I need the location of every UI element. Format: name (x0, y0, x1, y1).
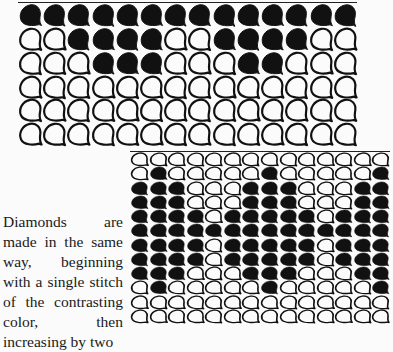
empty-stitch-icon (279, 309, 298, 323)
empty-stitch-icon (212, 75, 236, 99)
filled-stitch-icon (186, 209, 205, 223)
empty-stitch-icon (66, 122, 90, 146)
filled-stitch-icon (186, 223, 205, 237)
empty-stitch-icon (149, 309, 168, 323)
empty-stitch-icon (260, 122, 284, 146)
caption-line: with a single stitch (3, 272, 123, 292)
filled-stitch-icon (186, 252, 205, 266)
empty-stitch-icon (260, 295, 279, 309)
filled-stitch-icon (279, 195, 298, 209)
empty-stitch-icon (309, 98, 333, 122)
empty-stitch-icon (149, 152, 168, 166)
empty-stitch-icon (91, 75, 115, 99)
filled-stitch-icon (316, 223, 335, 237)
filled-stitch-icon (42, 3, 66, 27)
empty-stitch-icon (353, 295, 372, 309)
empty-stitch-icon (167, 295, 186, 309)
filled-stitch-icon (212, 27, 236, 51)
empty-stitch-icon (42, 122, 66, 146)
empty-stitch-icon (333, 98, 357, 122)
empty-stitch-icon (284, 51, 308, 75)
filled-stitch-icon (149, 195, 168, 209)
empty-stitch-icon (284, 98, 308, 122)
empty-stitch-icon (333, 122, 357, 146)
empty-stitch-icon (316, 266, 335, 280)
filled-stitch-icon (115, 27, 139, 51)
filled-stitch-icon (115, 51, 139, 75)
empty-stitch-icon (241, 166, 260, 180)
filled-stitch-icon (91, 27, 115, 51)
filled-stitch-icon (149, 238, 168, 252)
empty-stitch-icon (353, 152, 372, 166)
filled-stitch-icon (149, 280, 168, 294)
empty-stitch-icon (353, 166, 372, 180)
empty-stitch-icon (204, 209, 223, 223)
empty-stitch-icon (130, 280, 149, 294)
filled-stitch-icon (130, 209, 149, 223)
empty-stitch-icon (334, 266, 353, 280)
empty-stitch-icon (223, 280, 242, 294)
empty-stitch-icon (279, 166, 298, 180)
caption-line: increasing by two (3, 332, 123, 352)
filled-stitch-icon (279, 223, 298, 237)
filled-stitch-icon (66, 27, 90, 51)
empty-stitch-icon (18, 122, 42, 146)
filled-stitch-icon (139, 51, 163, 75)
empty-stitch-icon (66, 98, 90, 122)
empty-stitch-icon (223, 181, 242, 195)
empty-stitch-icon (204, 152, 223, 166)
filled-stitch-icon (260, 166, 279, 180)
empty-stitch-icon (187, 98, 211, 122)
empty-stitch-icon (186, 295, 205, 309)
empty-stitch-icon (115, 122, 139, 146)
empty-stitch-icon (334, 195, 353, 209)
filled-stitch-icon (149, 181, 168, 195)
filled-stitch-icon (371, 181, 390, 195)
filled-stitch-icon (186, 238, 205, 252)
empty-stitch-icon (163, 27, 187, 51)
empty-stitch-icon (204, 266, 223, 280)
empty-stitch-icon (204, 295, 223, 309)
empty-stitch-icon (334, 152, 353, 166)
empty-stitch-icon (186, 181, 205, 195)
empty-stitch-icon (42, 98, 66, 122)
filled-stitch-icon (334, 238, 353, 252)
empty-stitch-icon (42, 75, 66, 99)
filled-stitch-icon (371, 166, 390, 180)
empty-stitch-icon (204, 195, 223, 209)
empty-stitch-icon (186, 166, 205, 180)
empty-stitch-icon (309, 51, 333, 75)
empty-stitch-icon (223, 152, 242, 166)
filled-stitch-icon (149, 252, 168, 266)
filled-stitch-icon (167, 223, 186, 237)
filled-stitch-icon (149, 166, 168, 180)
caption-line: of the contrasting (3, 292, 123, 312)
caption-line: color, then (3, 312, 123, 332)
empty-stitch-icon (204, 280, 223, 294)
empty-stitch-icon (204, 238, 223, 252)
filled-stitch-icon (223, 238, 242, 252)
empty-stitch-icon (91, 122, 115, 146)
filled-stitch-icon (297, 252, 316, 266)
empty-stitch-icon (279, 152, 298, 166)
empty-stitch-icon (284, 122, 308, 146)
empty-stitch-icon (204, 181, 223, 195)
empty-stitch-icon (353, 309, 372, 323)
empty-stitch-icon (167, 280, 186, 294)
empty-stitch-icon (212, 98, 236, 122)
empty-stitch-icon (187, 75, 211, 99)
caption-line: Diamonds are (3, 212, 123, 232)
empty-stitch-icon (334, 309, 353, 323)
filled-stitch-icon (260, 27, 284, 51)
empty-stitch-icon (309, 27, 333, 51)
filled-stitch-icon (241, 195, 260, 209)
filled-stitch-icon (223, 252, 242, 266)
empty-stitch-icon (204, 166, 223, 180)
empty-stitch-icon (115, 98, 139, 122)
filled-stitch-icon (371, 209, 390, 223)
filled-stitch-icon (18, 3, 42, 27)
empty-stitch-icon (163, 122, 187, 146)
empty-stitch-icon (163, 75, 187, 99)
empty-stitch-icon (91, 98, 115, 122)
empty-stitch-icon (212, 51, 236, 75)
